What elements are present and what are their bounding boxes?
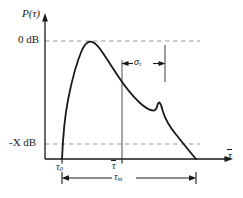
tau-m-label: τm xyxy=(114,172,122,183)
power-delay-profile-curve xyxy=(62,42,196,159)
figure-canvas xyxy=(0,0,243,198)
tau-m-arrow-left-head xyxy=(62,175,70,181)
tau-m-subscript: m xyxy=(118,175,123,182)
x-axis-caption-symbol: τ xyxy=(228,150,232,161)
y-tick-label-minus-x-db: -X dB xyxy=(9,137,36,148)
tau-m-span xyxy=(62,172,197,184)
power-delay-profile-figure: P(τ) 0 dB -X dB τ τ0 τ στ τm xyxy=(0,0,243,198)
x-tick-label-tau-zero: τ0 xyxy=(56,162,63,173)
tau-mean-symbol: τ xyxy=(112,161,116,171)
y-tick-label-0db: 0 dB xyxy=(18,34,39,45)
y-axis-arrowhead xyxy=(42,13,48,22)
sigma-arrow-left-head xyxy=(122,61,129,66)
tau-m-arrow-right-head xyxy=(189,175,197,181)
x-axis-caption: τ xyxy=(228,150,232,161)
tau-zero-subscript: 0 xyxy=(60,165,63,172)
x-tick-label-tau-mean: τ xyxy=(112,161,116,171)
y-axis-caption: P(τ) xyxy=(22,8,40,19)
sigma-tau-bracket xyxy=(122,45,166,82)
sigma-subscript: τ xyxy=(139,60,141,67)
sigma-tau-label: στ xyxy=(134,57,141,68)
